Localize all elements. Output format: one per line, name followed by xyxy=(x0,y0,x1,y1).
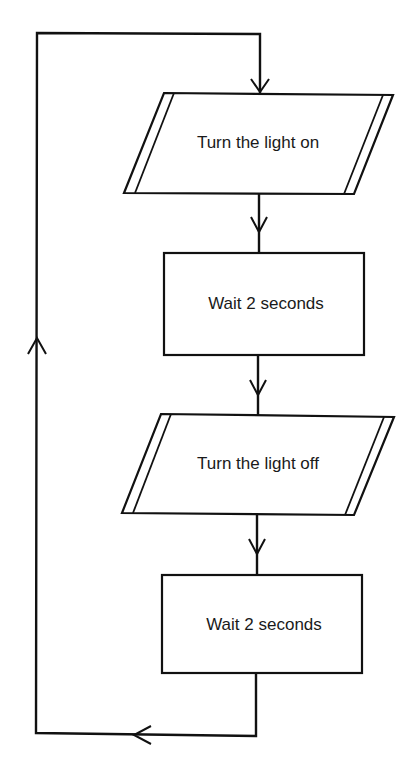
connector-1-2 xyxy=(251,194,267,253)
node-label: Wait 2 seconds xyxy=(206,615,322,634)
connector-3-4 xyxy=(249,515,265,575)
node-label: Turn the light on xyxy=(197,133,319,152)
process-node-wait-2: Wait 2 seconds xyxy=(162,575,362,673)
node-label: Wait 2 seconds xyxy=(208,294,324,313)
node-label: Turn the light off xyxy=(197,454,319,473)
process-node-wait-1: Wait 2 seconds xyxy=(164,253,364,355)
flowchart-diagram: Turn the light on Wait 2 seconds Turn th… xyxy=(0,0,419,774)
connector-2-3 xyxy=(250,355,266,415)
io-node-turn-light-off: Turn the light off xyxy=(122,414,394,515)
io-node-turn-light-on: Turn the light on xyxy=(124,93,393,194)
